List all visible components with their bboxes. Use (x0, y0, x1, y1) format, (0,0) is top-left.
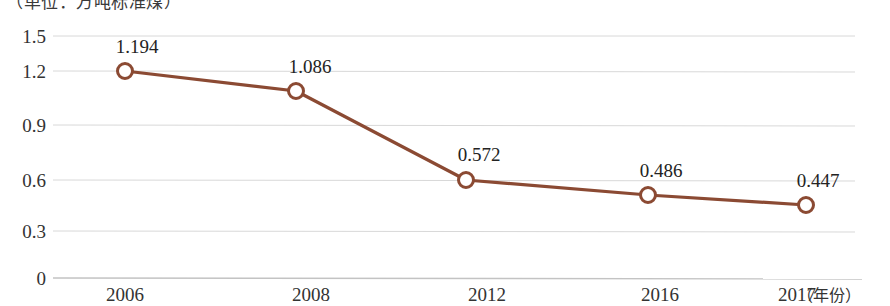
data-label-2006: 1.194 (116, 36, 159, 57)
gridline-0.9 (53, 125, 855, 126)
x-tick-label-2012: 2012 (468, 284, 506, 305)
data-label-2008: 1.086 (289, 56, 332, 77)
gridline-0.6 (53, 180, 855, 181)
y-tick-label-0: 0 (37, 268, 47, 289)
data-markers (118, 64, 814, 213)
x-tick-label-2008: 2008 (292, 284, 330, 305)
x-axis-line (53, 278, 862, 279)
gridline-0.3 (53, 231, 855, 232)
data-point-2006[interactable] (118, 64, 133, 79)
line-chart: （单位：万吨标准煤） 1.5 1.2 0.9 0.6 0.3 0 (0, 0, 890, 306)
data-point-2008[interactable] (289, 84, 304, 99)
x-axis-unit-label: （年份） (797, 287, 861, 304)
y-tick-label-1.2: 1.2 (22, 61, 46, 82)
y-axis-tick-labels: 1.5 1.2 0.9 0.6 0.3 0 (22, 26, 46, 289)
gridline-1.2 (53, 71, 855, 72)
data-point-2016[interactable] (641, 188, 656, 203)
data-point-2012[interactable] (459, 173, 474, 188)
x-axis-tick-labels: 2006 2008 2012 2016 2017 （年份） (106, 284, 861, 305)
data-point-2017[interactable] (799, 198, 814, 213)
x-tick-label-2006: 2006 (106, 284, 144, 305)
y-tick-label-0.6: 0.6 (22, 170, 46, 191)
y-tick-label-1.5: 1.5 (22, 26, 46, 47)
y-tick-label-0.3: 0.3 (22, 221, 46, 242)
y-tick-label-0.9: 0.9 (22, 115, 46, 136)
data-label-2016: 0.486 (640, 160, 683, 181)
chart-canvas: 1.5 1.2 0.9 0.6 0.3 0 1.194 1.086 0.572 … (0, 0, 890, 306)
gridlines (53, 36, 855, 232)
x-tick-label-2016: 2016 (641, 284, 679, 305)
data-point-labels: 1.194 1.086 0.572 0.486 0.447 (116, 36, 840, 191)
data-label-2017: 0.447 (797, 170, 840, 191)
data-label-2012: 0.572 (458, 144, 501, 165)
